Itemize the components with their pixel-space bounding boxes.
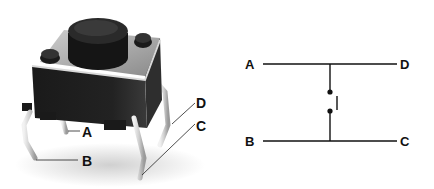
leader-line-d (172, 103, 195, 124)
floor-shadow (15, 143, 205, 187)
switch-schematic: A D B C (220, 0, 434, 189)
schematic-label-b: B (245, 134, 254, 149)
switch-photo: A B D C (0, 0, 220, 189)
schematic-diagram: A D B C (220, 0, 434, 189)
plunger-highlight (74, 20, 118, 36)
schematic-label-c: C (400, 134, 410, 149)
body-foot (104, 120, 126, 130)
photo-label-c: C (196, 118, 206, 134)
body-foot (40, 112, 56, 120)
switch-contact-bottom (327, 108, 332, 113)
tactile-switch-illustration: A B D C (0, 0, 220, 189)
leg-b (24, 112, 35, 158)
schematic-label-a: A (245, 57, 255, 72)
switch-contact-top (327, 89, 332, 94)
corner-stud-top (41, 49, 59, 59)
photo-label-d: D (196, 95, 206, 111)
photo-label-a: A (82, 124, 92, 140)
photo-label-b: B (82, 153, 92, 169)
corner-stud-top (135, 33, 151, 43)
schematic-label-d: D (400, 57, 409, 72)
